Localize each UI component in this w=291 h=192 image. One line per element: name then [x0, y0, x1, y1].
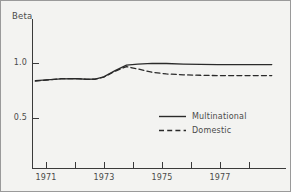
legend-label-multinational: Multinational	[192, 113, 247, 121]
chart-figure: Beta 1.0 0.5 1971 1973 1975 1977 Multina…	[0, 0, 291, 192]
series-line-domestic	[35, 67, 271, 82]
legend-label-domestic: Domestic	[192, 127, 231, 135]
x-tick-marks	[33, 162, 250, 169]
y-tick-marks	[33, 64, 40, 119]
x-tick-label-1973: 1973	[90, 174, 118, 182]
x-tick-label-1971: 1971	[32, 174, 60, 182]
chart-plot-area	[1, 1, 291, 192]
y-tick-label-0.5: 0.5	[5, 114, 27, 122]
x-tick-label-1977: 1977	[206, 174, 234, 182]
y-axis-label: Beta	[12, 12, 32, 21]
y-tick-label-1.0: 1.0	[5, 59, 27, 67]
x-tick-label-1975: 1975	[148, 174, 176, 182]
